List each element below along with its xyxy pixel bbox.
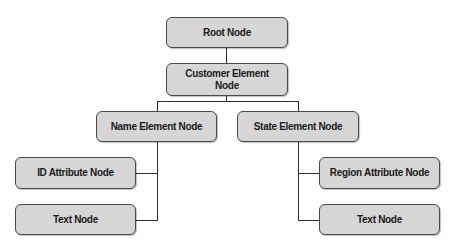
text-node-right: Text Node: [319, 204, 440, 235]
state-element-node: State Element Node: [237, 111, 359, 142]
edge-state-text: [298, 220, 319, 221]
root-node-label: Root Node: [203, 27, 251, 39]
root-node: Root Node: [166, 17, 288, 48]
customer-element-node: Customer Element Node: [166, 63, 288, 96]
name-element-node-label: Name Element Node: [111, 121, 203, 133]
edge-name-text: [136, 220, 158, 221]
edge-state-region: [298, 173, 319, 174]
edge-to-state: [298, 101, 299, 111]
xml-tree-diagram: Root Node Customer Element Node Name Ele…: [0, 0, 453, 248]
text-node-left-label: Text Node: [53, 214, 98, 226]
edge-name-id: [136, 173, 158, 174]
region-attribute-node: Region Attribute Node: [319, 157, 440, 189]
edge-customer-branch: [157, 101, 299, 102]
edge-name-trunk: [157, 142, 158, 221]
state-element-node-label: State Element Node: [254, 121, 343, 133]
text-node-right-label: Text Node: [357, 214, 402, 226]
name-element-node: Name Element Node: [96, 111, 217, 142]
edge-root-customer: [226, 48, 227, 63]
customer-element-node-label: Customer Element Node: [185, 68, 269, 92]
id-attribute-node-label: ID Attribute Node: [37, 167, 114, 179]
id-attribute-node: ID Attribute Node: [15, 157, 136, 189]
region-attribute-node-label: Region Attribute Node: [330, 167, 429, 179]
edge-state-trunk: [298, 142, 299, 221]
edge-to-name: [157, 101, 158, 111]
text-node-left: Text Node: [15, 204, 136, 235]
